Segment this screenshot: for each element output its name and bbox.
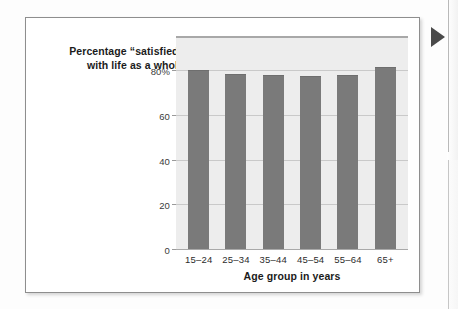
x-axis-tick-label: 45–54 (292, 254, 329, 265)
x-axis-tick-label: 35–44 (255, 254, 292, 265)
plot-area: 020406080% (176, 36, 408, 250)
x-axis-title: Age group in years (176, 270, 408, 282)
x-axis-tick-label: 25–34 (217, 254, 254, 265)
x-axis-tick-label: 15–24 (180, 254, 217, 265)
bar-slot (180, 38, 217, 250)
chart-title-line-1: Percentage “satisfied” (34, 44, 184, 58)
bar (375, 67, 396, 250)
bar-slot (367, 38, 404, 250)
y-axis-tick-label: 60 (159, 111, 170, 122)
x-axis-tick-label: 55–64 (329, 254, 366, 265)
bar-slot (292, 38, 329, 250)
figure-frame: Percentage “satisfied” with life as a wh… (25, 17, 420, 293)
bar-slot (217, 38, 254, 250)
bar-series (176, 38, 408, 250)
y-axis-tick-label: 40 (159, 155, 170, 166)
y-axis-tick-label: 20 (159, 200, 170, 211)
bar (263, 75, 284, 250)
bar-slot (329, 38, 366, 250)
bar (300, 76, 321, 250)
page-edge-rule-top (448, 0, 449, 152)
x-axis-tick-label: 65+ (367, 254, 404, 265)
play-triangle-icon (431, 27, 445, 47)
bar (188, 70, 209, 250)
page-background: Percentage “satisfied” with life as a wh… (0, 0, 458, 309)
bar (337, 75, 358, 250)
y-axis-tick-label: 80% (151, 66, 170, 77)
y-axis-tick-label: 0 (165, 245, 170, 256)
page-edge-rule-bottom (448, 160, 449, 309)
bar (225, 74, 246, 250)
x-axis-baseline (176, 249, 408, 251)
x-axis-tick-labels: 15–2425–3435–4445–5455–6465+ (176, 254, 408, 265)
bar-slot (255, 38, 292, 250)
